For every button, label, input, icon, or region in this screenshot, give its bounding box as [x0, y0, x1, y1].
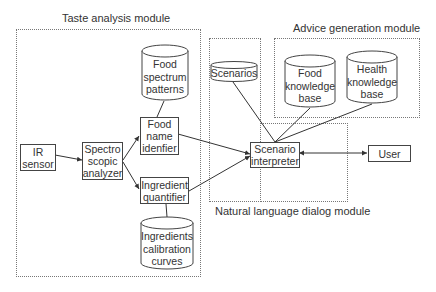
spectroscopic-analyzer-node: Spectroscopicanalyzer: [82, 142, 123, 180]
scenarios-node: Scenarios: [211, 67, 257, 80]
food-knowledge-base-node: Foodknowledgebase: [285, 66, 335, 106]
ingredient-quantifier-node: Ingredientquantifier: [140, 177, 189, 204]
health-knowledge-base-label: Healthknowledgebase: [347, 63, 397, 101]
spectroscopic-analyzer-label: Spectroscopicanalyzer: [83, 143, 123, 179]
user-node: User: [368, 145, 411, 162]
food-knowledge-base-label: Foodknowledgebase: [285, 67, 335, 105]
food-name-identifier-label: Foodnameidenfier: [142, 118, 176, 154]
scenario-interpreter-node: Scenariointerpreter: [250, 142, 300, 168]
food-spectrum-patterns-label: Foodspectrumpatterns: [143, 58, 186, 96]
scenario-interpreter-label: Scenariointerpreter: [251, 143, 299, 167]
food-name-identifier-node: Foodnameidenfier: [140, 117, 179, 155]
ingredients-calibration-curves-node: Ingredientscalibrationcurves: [141, 229, 193, 269]
ingredients-calibration-curves-label: Ingredientscalibrationcurves: [141, 230, 193, 268]
user-label: User: [378, 148, 400, 160]
ir-sensor-label: IRsensor: [22, 146, 54, 170]
ir-sensor-node: IRsensor: [20, 144, 56, 171]
health-knowledge-base-node: Healthknowledgebase: [347, 62, 397, 102]
scenarios-label: Scenarios: [211, 67, 258, 80]
ingredient-quantifier-label: Ingredientquantifier: [141, 179, 188, 203]
food-spectrum-patterns-node: Foodspectrumpatterns: [142, 57, 188, 97]
